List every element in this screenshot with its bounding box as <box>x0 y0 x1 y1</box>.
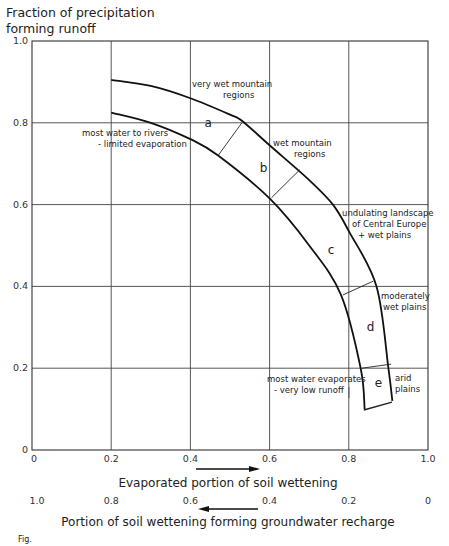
svg-text:regions: regions <box>294 149 326 159</box>
annotation-very-wet-mountain: very wet mountain regions <box>192 79 272 100</box>
zone-dividers <box>218 123 392 410</box>
y-tick-labels: 1.00.80.60.40.20 <box>13 35 28 455</box>
zone-label-d: d <box>367 320 375 334</box>
zone-divider <box>364 402 392 410</box>
svg-text:- very low runoff: - very low runoff <box>274 385 345 395</box>
annotation-most-water-evaporates: most water evaporates - very low runoff <box>267 374 366 395</box>
svg-text:- limited evaporation: - limited evaporation <box>98 139 187 149</box>
x2-tick-label: 0 <box>425 495 431 506</box>
x-tick-label: 0.4 <box>183 453 198 464</box>
y-tick-label: 0 <box>22 444 28 455</box>
zone-label-e: e <box>375 376 382 390</box>
y-tick-label: 0.2 <box>13 362 28 373</box>
svg-text:undulating landscape: undulating landscape <box>342 208 434 218</box>
svg-text:most water to rivers: most water to rivers <box>82 128 169 138</box>
y-axis-title-line-2: forming runoff <box>6 21 96 36</box>
x-tick-labels: 00.20.40.60.81.0 <box>31 453 436 464</box>
zone-divider <box>272 170 300 198</box>
x-axis-title: Evaporated portion of soil wettening <box>118 476 337 490</box>
svg-text:wet mountain: wet mountain <box>273 138 332 148</box>
annotation-moderately-wet-plains: moderately wet plains <box>381 291 430 312</box>
x2-tick-label: 0.4 <box>262 495 277 506</box>
y-tick-label: 0.6 <box>13 199 28 210</box>
figure-caption: Fig. <box>18 535 32 544</box>
y-tick-label: 1.0 <box>13 35 28 46</box>
lower-boundary-curve <box>111 113 364 410</box>
grid-lines <box>32 41 428 450</box>
x-tick-label: 0.2 <box>104 453 119 464</box>
annotation-arid-plains: arid plains <box>395 373 421 394</box>
annotation-undulating-landscape: undulating landscape of Central Europe +… <box>342 208 434 240</box>
x2-axis-title: Portion of soil wettening forming ground… <box>61 515 394 529</box>
x2-tick-labels: 1.00.80.60.40.20 <box>29 495 431 506</box>
svg-text:+ wet plains: + wet plains <box>358 230 412 240</box>
svg-text:regions: regions <box>223 90 255 100</box>
plot-frame <box>32 41 428 450</box>
svg-text:very wet mountain: very wet mountain <box>192 79 272 89</box>
zone-label-b: b <box>260 161 268 175</box>
zone-divider <box>218 123 242 156</box>
svg-text:most water evaporates: most water evaporates <box>267 374 366 384</box>
x-tick-label: 0.8 <box>341 453 356 464</box>
x-tick-label: 0 <box>31 453 37 464</box>
svg-text:of Central Europe: of Central Europe <box>352 219 426 229</box>
x2-tick-label: 0.6 <box>183 495 198 506</box>
svg-text:plains: plains <box>395 384 421 394</box>
x2-tick-label: 1.0 <box>29 495 44 506</box>
y-tick-label: 0.4 <box>13 280 28 291</box>
y-tick-label: 0.8 <box>13 117 28 128</box>
x-tick-label: 1.0 <box>420 453 435 464</box>
x-tick-label: 0.6 <box>262 453 277 464</box>
x2-axis-arrow-left-icon <box>198 506 258 512</box>
zone-label-a: a <box>205 116 212 130</box>
x-axis-arrow-right-icon <box>196 466 260 472</box>
svg-text:arid: arid <box>395 373 411 383</box>
svg-text:moderately: moderately <box>381 291 430 301</box>
zone-label-c: c <box>328 243 335 257</box>
x2-tick-label: 0.2 <box>341 495 356 506</box>
svg-text:wet plains: wet plains <box>383 302 427 312</box>
zone-divider <box>362 364 391 368</box>
runoff-chart: Fraction of precipitation forming runoff… <box>0 0 449 546</box>
zone-divider <box>343 281 373 295</box>
x2-tick-label: 0.8 <box>104 495 119 506</box>
y-axis-title-line-1: Fraction of precipitation <box>6 5 155 20</box>
